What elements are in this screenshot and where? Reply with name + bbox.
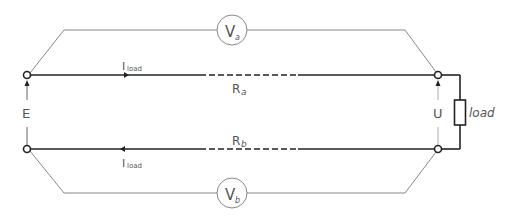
resistance-label-a: R a <box>232 82 247 97</box>
svg-text:I: I <box>122 157 125 170</box>
voltmeter-a: V a <box>217 15 247 45</box>
source-terminal-top <box>24 72 31 79</box>
current-label-a: I load <box>122 60 142 73</box>
load-voltage-arrow: U <box>433 80 443 145</box>
svg-text:load: load <box>127 65 142 73</box>
source-voltage-label: E <box>22 106 30 121</box>
svg-text:a: a <box>241 87 247 97</box>
resistance-label-b: R b <box>232 134 247 149</box>
current-arrow-b <box>120 146 125 152</box>
svg-text:R: R <box>232 134 240 148</box>
load-terminal-bottom <box>435 146 442 153</box>
voltmeter-b: V b <box>217 178 247 208</box>
voltmeter-a-sub: a <box>235 33 240 42</box>
load-resistor: load <box>455 75 496 149</box>
svg-text:I: I <box>122 60 125 73</box>
svg-text:R: R <box>232 82 240 96</box>
source-terminal-bottom <box>24 146 31 153</box>
circuit-diagram: V a V b I load R a I load R b <box>0 0 514 223</box>
current-label-b: I load <box>122 157 142 170</box>
source-voltage-arrow: E <box>22 80 30 145</box>
svg-text:load: load <box>127 162 142 170</box>
load-label: load <box>469 106 495 120</box>
svg-text:b: b <box>241 139 247 149</box>
load-voltage-label: U <box>433 106 443 121</box>
voltmeter-b-sub: b <box>235 196 240 205</box>
load-terminal-top <box>435 72 442 79</box>
